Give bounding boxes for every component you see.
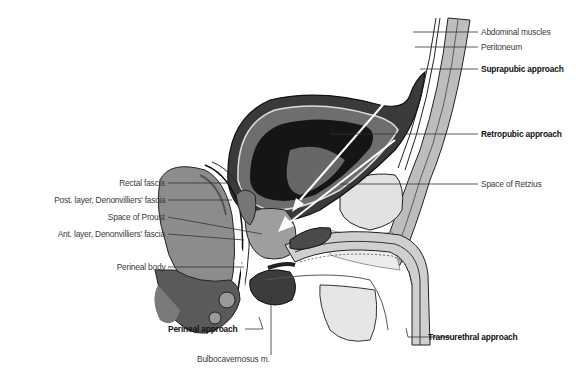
bulb-of-penis — [250, 270, 296, 305]
label-perineal-body: Perineal body — [116, 261, 165, 272]
seminal-vesicle — [236, 190, 256, 225]
perineal-arrow — [240, 258, 250, 330]
label-retropubic-approach: Retropubic approach — [481, 128, 562, 139]
label-transurethral-approach: Transurethral approach — [428, 331, 518, 342]
label-ant-layer-denonvilliers: Ant. layer, Denonvilliers' fascia — [58, 228, 165, 239]
anatomical-figure: Abdominal muscles Peritoneum Suprapubic … — [0, 0, 581, 374]
label-perineal-approach: Perineal approach — [168, 323, 237, 334]
scrotum — [320, 285, 377, 341]
label-post-layer-denonvilliers: Post. layer, Denonvilliers' fascia — [54, 194, 165, 205]
label-rectal-fascia: Rectal fascia — [119, 177, 165, 188]
label-peritoneum: Peritoneum — [481, 41, 522, 52]
label-space-of-proust: Space of Proust — [108, 211, 165, 222]
label-bulbocavernosus: Bulbocavernosus m. — [197, 353, 270, 364]
label-abdominal-muscles: Abdominal muscles — [481, 26, 551, 37]
label-space-of-retzius: Space of Retzius — [481, 178, 541, 189]
label-suprapubic-approach: Suprapubic approach — [481, 63, 564, 74]
